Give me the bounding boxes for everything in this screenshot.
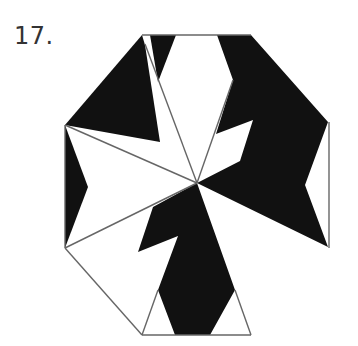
- line-bottom-left-edge: [65, 248, 142, 335]
- line-bottom-left-leg: [142, 290, 158, 335]
- region-top-spike: [150, 35, 176, 82]
- region-top-left-wedge: [65, 35, 160, 142]
- line-bottom-right-leg: [235, 290, 251, 335]
- region-left-wedge: [65, 125, 88, 248]
- geometric-figure: [0, 0, 358, 346]
- region-bottom-region: [138, 183, 235, 335]
- region-right-region: [197, 35, 328, 247]
- black-regions: [65, 35, 328, 335]
